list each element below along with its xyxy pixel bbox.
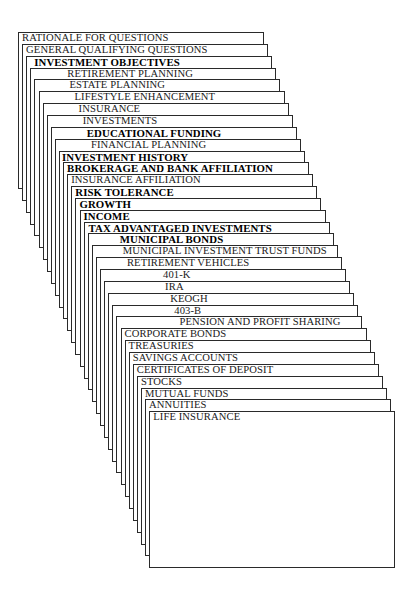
card-tab-label: CERTIFICATES OF DEPOSIT — [137, 364, 273, 376]
card-tab-label: MUTUAL FUNDS — [145, 388, 229, 400]
card-tab-label: GENERAL QUALIFYING QUESTIONS — [26, 44, 207, 56]
card-tab-label: RETIREMENT PLANNING — [67, 68, 193, 80]
card-tab-label: MUNICIPAL BONDS — [120, 233, 224, 245]
card-tab-label: TAX ADVANTAGED INVESTMENTS — [89, 222, 272, 234]
card-tab-label: BROKERAGE AND BANK AFFILIATION — [67, 162, 273, 174]
card-tab-label: GROWTH — [79, 198, 131, 210]
card-tab-label: IRA — [165, 281, 184, 293]
index-card: LIFE INSURANCE — [149, 411, 395, 568]
card-tab-label: LIFESTYLE ENHANCEMENT — [75, 91, 216, 103]
card-tab-label: INVESTMENT HISTORY — [62, 151, 188, 163]
card-tab-label: 401-K — [163, 269, 191, 281]
card-tab-label: INVESTMENTS — [83, 115, 158, 127]
card-tab-label: ANNUITIES — [149, 399, 206, 411]
card-tab-label: FINANCIAL PLANNING — [91, 139, 206, 151]
card-tab-label: KEOGH — [170, 293, 208, 305]
card-tab-label: LIFE INSURANCE — [153, 411, 240, 423]
card-tab-label: SAVINGS ACCOUNTS — [133, 352, 238, 364]
card-tab-label: MUNICIPAL INVESTMENT TRUST FUNDS — [123, 245, 327, 257]
card-tab-label: RATIONALE FOR QUESTIONS — [22, 32, 169, 44]
card-tab-label: STOCKS — [141, 376, 182, 388]
card-tab-label: RISK TOLERANCE — [75, 186, 174, 198]
card-tab-label: INSURANCE — [79, 103, 141, 115]
card-tab-label: INVESTMENT OBJECTIVES — [34, 56, 180, 68]
card-tab-label: INSURANCE AFFILIATION — [71, 174, 201, 186]
card-tab-label: EDUCATIONAL FUNDING — [87, 127, 222, 139]
card-tab-label: INCOME — [84, 210, 130, 222]
index-card-stack: RATIONALE FOR QUESTIONSGENERAL QUALIFYIN… — [0, 0, 415, 597]
card-tab-label: RETIREMENT VEHICLES — [127, 257, 249, 269]
card-tab-label: PENSION AND PROFIT SHARING — [179, 316, 340, 328]
card-tab-label: TREASURIES — [129, 340, 194, 352]
card-tab-label: 403-B — [174, 305, 201, 317]
card-tab-label: ESTATE PLANNING — [69, 79, 165, 91]
card-tab-label: CORPORATE BONDS — [125, 328, 227, 340]
